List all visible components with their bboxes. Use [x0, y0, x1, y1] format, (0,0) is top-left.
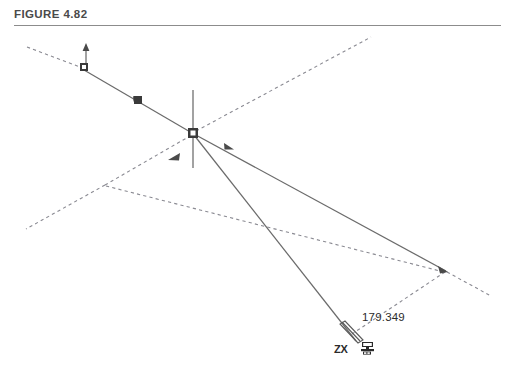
pointer-leader-shape [340, 321, 363, 343]
dashed-line-top-left [27, 47, 80, 67]
pointer-tip-center-line [342, 322, 360, 341]
arrowhead-up-icon [83, 43, 90, 51]
grip-node-center-inner [191, 131, 196, 136]
grip-node-mid[interactable] [134, 96, 142, 104]
dashed-line-left-vertex-down [26, 185, 105, 229]
solid-line-center-to-pointer [194, 135, 356, 341]
zx-coordinate-system-icon [360, 341, 375, 355]
dashed-line-left-vertex-to-right-vertex [106, 186, 444, 272]
arrowhead-right-solid-icon [224, 143, 234, 150]
arrowhead-left-dashed-icon [168, 153, 180, 161]
dashed-line-center-to-top-right [196, 37, 371, 131]
figure-page: FIGURE 4.82 [0, 0, 516, 370]
grip-node-upper-left-inner [82, 65, 86, 69]
dashed-line-right-vertex-down [447, 272, 491, 296]
solid-line-center-to-right-vertex [194, 134, 446, 271]
direction-arrowheads [83, 43, 448, 274]
axis-label-zx: ZX [334, 343, 348, 355]
dashed-line-left-vertex-to-center [105, 136, 190, 185]
figure-drawing-canvas [0, 0, 516, 370]
arrowhead-right-vertex-icon [438, 266, 448, 274]
dimension-value-label: 179.349 [362, 311, 405, 323]
dashed-line-right-vertex-to-pointer [352, 272, 445, 334]
dashed-projection-lines [26, 37, 491, 334]
